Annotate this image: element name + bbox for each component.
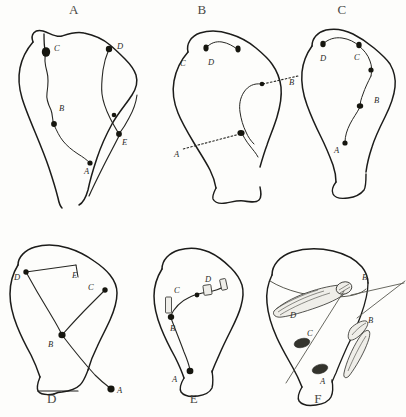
panel-a: A C D B E A bbox=[0, 0, 150, 210]
figure-plate: A C D B E A B C D B A bbox=[0, 0, 406, 417]
panel-e-title: E bbox=[182, 391, 206, 407]
panel-f-label-a: A bbox=[320, 377, 325, 386]
panel-c: C D C B A bbox=[290, 0, 406, 210]
panel-f-label-b-upper: B bbox=[362, 273, 367, 282]
panel-a-label-a: A bbox=[84, 167, 89, 176]
panel-d-label-a: A bbox=[117, 386, 122, 395]
panel-f-label-c: C bbox=[307, 329, 313, 338]
panel-b-label-d: D bbox=[208, 58, 214, 67]
panel-e: E C D B A bbox=[140, 225, 270, 417]
panel-c-drawing bbox=[290, 0, 406, 210]
panel-c-label-a: A bbox=[334, 146, 339, 155]
panel-a-label-b: B bbox=[59, 104, 64, 113]
panel-a-label-d: D bbox=[117, 42, 123, 51]
panel-e-label-d: D bbox=[205, 275, 211, 284]
panel-b-label-c: C bbox=[180, 59, 186, 68]
panel-f-label-b-lower: B bbox=[368, 316, 373, 325]
panel-c-label-d: D bbox=[320, 54, 326, 63]
panel-f-title: F bbox=[306, 391, 330, 407]
panel-d-label-c: C bbox=[88, 283, 94, 292]
panel-a-title: A bbox=[62, 2, 86, 18]
panel-b: B C D B A bbox=[150, 0, 300, 210]
panel-c-label-c: C bbox=[354, 53, 360, 62]
panel-f-drawing bbox=[258, 225, 406, 417]
panel-e-drawing bbox=[140, 225, 270, 417]
panel-e-label-c: C bbox=[174, 286, 180, 295]
panel-a-label-e: E bbox=[122, 138, 127, 147]
panel-f-label-d: D bbox=[290, 311, 296, 320]
panel-a-drawing bbox=[0, 0, 150, 210]
panel-d-drawing bbox=[0, 225, 150, 417]
panel-b-title: B bbox=[190, 2, 214, 18]
panel-b-label-a: A bbox=[174, 150, 179, 159]
panel-d-title: D bbox=[40, 391, 64, 407]
panel-d-label-e: E bbox=[72, 271, 77, 280]
panel-a-label-c: C bbox=[54, 44, 60, 53]
panel-f: F D B C B A bbox=[258, 225, 406, 417]
panel-e-label-a: A bbox=[172, 375, 177, 384]
panel-d: D D E C B A bbox=[0, 225, 150, 417]
panel-d-label-b: B bbox=[48, 340, 53, 349]
panel-e-label-b: B bbox=[170, 324, 175, 333]
panel-c-title: C bbox=[330, 2, 354, 18]
panel-c-label-b: B bbox=[374, 96, 379, 105]
panel-b-drawing bbox=[150, 0, 300, 210]
panel-d-label-d: D bbox=[14, 273, 20, 282]
